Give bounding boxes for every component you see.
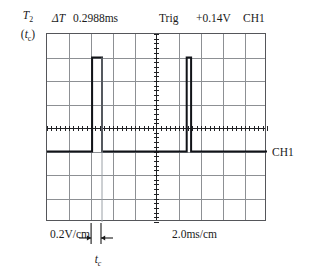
- arrow-head-icon: [87, 235, 91, 240]
- pulse-width-marker: [0, 0, 317, 276]
- pulse-width-subscript: c: [98, 259, 101, 268]
- pulse-width-label: tc: [88, 253, 108, 270]
- arrow-head-icon: [101, 235, 105, 240]
- oscilloscope-screenshot: T2 (tc) ΔT 0.2988ms Trig +0.14V CH1 CH1 …: [0, 0, 317, 276]
